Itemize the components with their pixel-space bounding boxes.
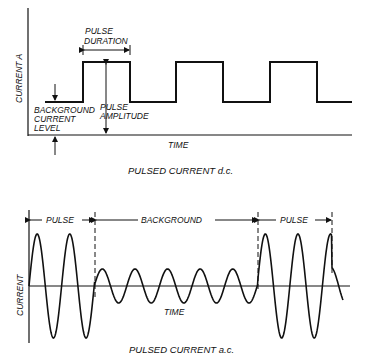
ac-segment-pulse-1: PULSE bbox=[46, 215, 74, 225]
ac-caption: PULSED CURRENT a.c. bbox=[129, 344, 234, 355]
pulse-duration-label: PULSE bbox=[85, 26, 113, 36]
background-level-label-3: LEVEL bbox=[34, 123, 61, 133]
dc-x-axis-label: TIME bbox=[168, 140, 189, 150]
dc-chart: PULSE DURATION PULSE AMPLITUDE BACKGROUN… bbox=[14, 8, 352, 176]
dc-y-axis-label: CURRENT A bbox=[14, 53, 24, 103]
dc-caption: PULSED CURRENT d.c. bbox=[128, 165, 233, 176]
ac-segment-background: BACKGROUND bbox=[141, 215, 202, 225]
pulse-duration-label-2: DURATION bbox=[84, 36, 129, 46]
ac-y-axis-label: CURRENT bbox=[15, 274, 25, 316]
ac-x-axis-label: TIME bbox=[164, 307, 185, 317]
ac-chart: PULSE BACKGROUND PULSE CURRENT TIME PULS… bbox=[15, 210, 350, 355]
ac-segment-pulse-2: PULSE bbox=[280, 215, 308, 225]
pulse-amplitude-label-2: AMPLITUDE bbox=[99, 111, 149, 121]
pulsed-current-diagram: PULSE DURATION PULSE AMPLITUDE BACKGROUN… bbox=[0, 0, 365, 364]
dc-square-wave bbox=[45, 62, 352, 102]
